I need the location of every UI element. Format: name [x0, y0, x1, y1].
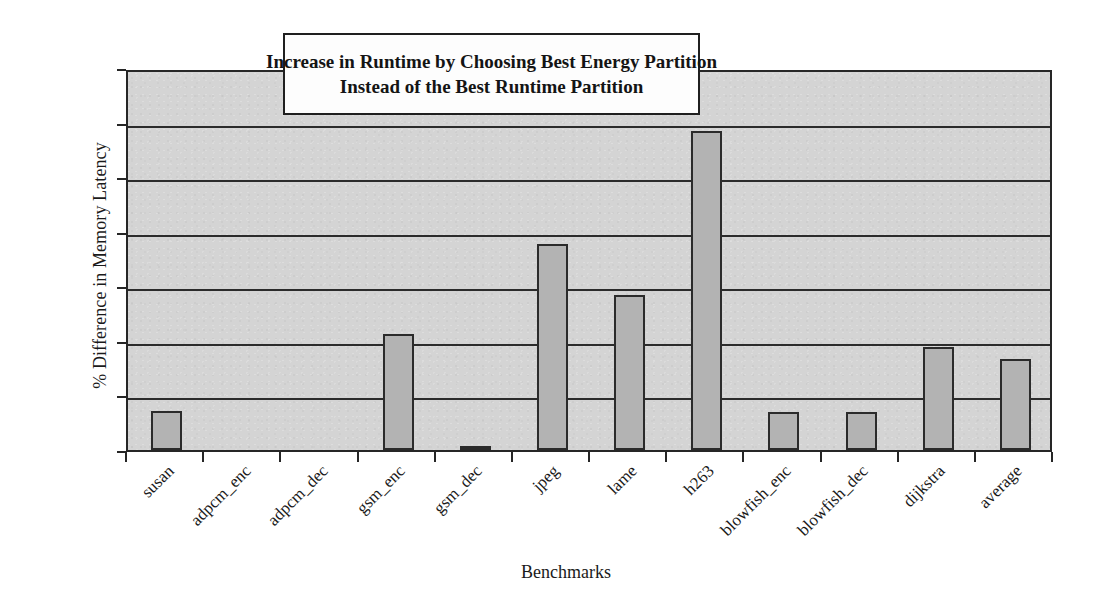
- bar: [768, 412, 799, 450]
- chart-title-box: Increase in Runtime by Choosing Best Ene…: [283, 33, 700, 115]
- y-tick-mark: [117, 342, 126, 344]
- gridline: [128, 344, 1050, 346]
- y-tick-mark: [117, 124, 126, 126]
- x-tick-mark: [665, 452, 667, 462]
- x-axis-title: Benchmarks: [0, 562, 1110, 583]
- chart-figure: % Difference in Memory Latency 0%1%2%3%4…: [0, 0, 1110, 612]
- x-tick-mark: [820, 452, 822, 462]
- y-tick-mark: [117, 287, 126, 289]
- x-axis-title-text: Benchmarks: [521, 562, 611, 583]
- x-tick-mark: [974, 452, 976, 462]
- gridline: [128, 289, 1050, 291]
- gridline: [128, 398, 1050, 400]
- x-tick-mark: [279, 452, 281, 462]
- x-tick-label: susan: [0, 462, 177, 612]
- bar: [614, 295, 645, 450]
- x-tick-mark: [357, 452, 359, 462]
- y-tick-mark: [117, 178, 126, 180]
- gridline: [128, 235, 1050, 237]
- x-tick-mark: [742, 452, 744, 462]
- chart-title-line-1: Increase in Runtime by Choosing Best Ene…: [266, 49, 717, 74]
- gridline: [128, 180, 1050, 182]
- x-tick-mark: [434, 452, 436, 462]
- y-tick-mark: [117, 69, 126, 71]
- x-tick-mark: [125, 452, 127, 462]
- bar: [460, 446, 491, 450]
- x-tick-mark: [202, 452, 204, 462]
- bar: [923, 347, 954, 450]
- x-tick-mark: [897, 452, 899, 462]
- bar: [151, 411, 182, 450]
- bar: [383, 334, 414, 450]
- chart-title-line-2: Instead of the Best Runtime Partition: [340, 74, 643, 99]
- y-tick-mark: [117, 233, 126, 235]
- x-tick-mark: [588, 452, 590, 462]
- gridline: [128, 126, 1050, 128]
- plot-area: [126, 70, 1052, 452]
- y-axis-title: % Difference in Memory Latency: [90, 56, 111, 476]
- bar: [691, 131, 722, 450]
- bar: [846, 412, 877, 450]
- y-tick-mark: [117, 396, 126, 398]
- x-tick-mark: [511, 452, 513, 462]
- bar: [1000, 359, 1031, 450]
- x-tick-mark: [1051, 452, 1053, 462]
- plot-texture: [128, 72, 1050, 450]
- bar: [537, 244, 568, 450]
